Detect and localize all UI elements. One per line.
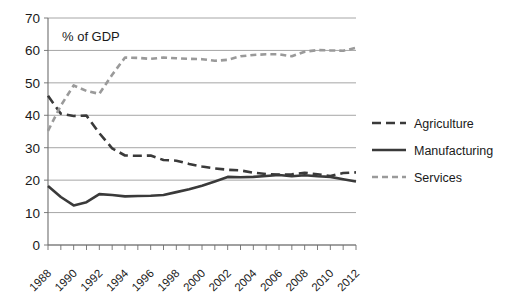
x-tick-label-2010: 2010: [309, 267, 336, 294]
legend: AgricultureManufacturingServices: [372, 117, 493, 185]
y-tick-label-30: 30: [25, 141, 40, 156]
y-tick-label-20: 20: [25, 173, 40, 188]
legend-label-agriculture[interactable]: Agriculture: [414, 117, 474, 131]
line-chart: 010203040506070 198819901992199419961998…: [0, 0, 509, 301]
chart-container: 010203040506070 198819901992199419961998…: [0, 0, 509, 301]
y-tick-label-50: 50: [25, 76, 40, 91]
series-lines: [48, 48, 356, 206]
y-tick-label-10: 10: [25, 206, 40, 221]
x-tick-label-1990: 1990: [52, 267, 79, 294]
x-tick-label-1994: 1994: [104, 267, 131, 294]
y-axis: [44, 18, 48, 245]
x-tick-label-1996: 1996: [129, 267, 156, 294]
legend-label-manufacturing[interactable]: Manufacturing: [414, 144, 493, 158]
x-tick-label-2002: 2002: [206, 267, 233, 294]
x-tick-label-2000: 2000: [181, 267, 208, 294]
legend-label-services[interactable]: Services: [414, 171, 462, 185]
x-tick-label-2004: 2004: [232, 267, 259, 294]
series-line-services: [48, 48, 356, 131]
x-tick-label-2008: 2008: [283, 267, 310, 294]
y-tick-label-0: 0: [32, 238, 40, 253]
x-axis: [48, 245, 356, 250]
x-tick-label-1998: 1998: [155, 267, 182, 294]
y-tick-label-70: 70: [25, 11, 40, 26]
x-tick-label-2006: 2006: [258, 267, 285, 294]
series-line-agriculture: [48, 96, 356, 176]
y-tick-label-60: 60: [25, 43, 40, 58]
series-line-manufacturing: [48, 175, 356, 205]
x-tick-label-1992: 1992: [78, 267, 105, 294]
x-tick-labels: 1988199019921994199619982000200220042006…: [27, 267, 362, 294]
x-tick-label-1988: 1988: [27, 267, 54, 294]
x-tick-label-2012: 2012: [335, 267, 362, 294]
y-tick-label-40: 40: [25, 108, 40, 123]
y-tick-labels: 010203040506070: [25, 11, 40, 253]
plot-annotation-percent-of-gdp: % of GDP: [62, 29, 120, 44]
